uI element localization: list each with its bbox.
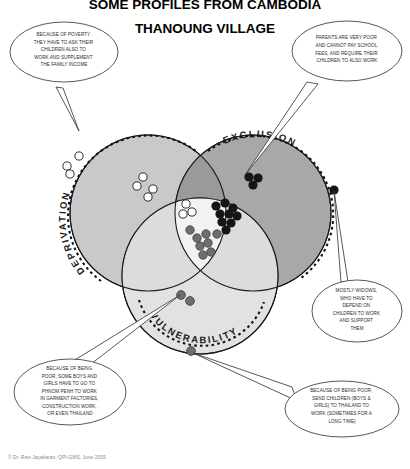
copyright-notice: © Dr. Ravi Jayakaran, QPI-GMS, June 2005 (8, 454, 106, 460)
venn-diagram-svg: SOME PROFILES FROM CAMBODIA THANOUNG VIL… (0, 0, 410, 469)
callout-bottom-right-tail (193, 353, 297, 401)
callout-top-left-tail (56, 87, 79, 131)
callout-bottom-left[interactable]: BECAUSE OF BEING POOR, SOME BOYS AND GIR… (14, 295, 180, 425)
callout-mid-right-tail (334, 191, 348, 282)
callout-bottom-right[interactable]: BECAUSE OF BEING POOR, SEND CHILDREN (BO… (193, 353, 399, 437)
dot-grey-bottom (187, 347, 196, 356)
page-title: THANOUNG VILLAGE (135, 21, 275, 36)
supertitle: SOME PROFILES FROM CAMBODIA (89, 0, 322, 12)
diagram-canvas: SOME PROFILES FROM CAMBODIA THANOUNG VIL… (0, 0, 410, 469)
callout-top-left[interactable]: BECAUSE OF POVERTY THEY HAVE TO ASK THEI… (10, 22, 118, 131)
